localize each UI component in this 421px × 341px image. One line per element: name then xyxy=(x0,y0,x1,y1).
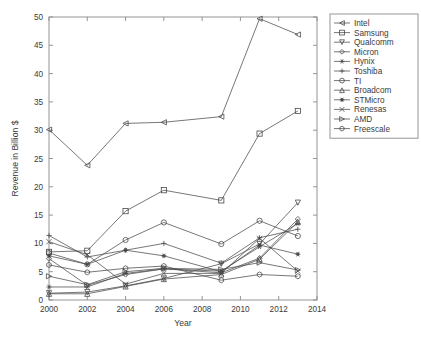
marker-plus xyxy=(161,241,166,246)
series-renesas xyxy=(46,236,300,287)
series-samsung xyxy=(46,108,300,254)
series-intel xyxy=(46,16,300,168)
legend-item-label: STMicro xyxy=(354,96,385,105)
x-tick-label: 2010 xyxy=(231,305,250,314)
y-tick-label: 15 xyxy=(34,211,44,220)
x-tick-label: 2006 xyxy=(155,305,174,314)
legend-item-label: Samsung xyxy=(354,29,389,38)
series-line xyxy=(49,19,298,166)
plot-frame xyxy=(49,17,317,300)
legend-item-label: Qualcomm xyxy=(354,38,394,47)
legend-item-label: Freescale xyxy=(354,125,390,134)
marker-asterisk xyxy=(295,252,300,257)
series-line xyxy=(49,111,298,252)
revenue-line-chart-figure: 2000200220042006200820102012201405101520… xyxy=(0,0,421,341)
series-ti xyxy=(46,218,300,267)
marker-asterisk xyxy=(161,254,166,259)
y-tick-label: 40 xyxy=(34,70,44,79)
marker-plus xyxy=(295,227,300,232)
x-tick-label: 2008 xyxy=(193,305,212,314)
series-toshiba xyxy=(46,227,300,266)
legend: IntelSamsungQualcommMicronHynixToshibaTI… xyxy=(330,14,418,138)
legend-item-label: Renesas xyxy=(354,105,386,114)
y-tick-label: 0 xyxy=(38,296,43,305)
legend-item-label: TI xyxy=(354,77,361,86)
legend-item-label: Hynix xyxy=(354,57,374,66)
legend-item-label: Broadcom xyxy=(354,86,391,95)
x-tick-label: 2002 xyxy=(78,305,97,314)
x-tick-label: 2000 xyxy=(40,305,59,314)
y-tick-label: 35 xyxy=(34,98,44,107)
legend-item-label: Intel xyxy=(354,19,370,28)
legend-item-label: AMD xyxy=(354,115,372,124)
y-tick-label: 20 xyxy=(34,183,44,192)
y-axis-title: Revenue in Billion $ xyxy=(10,120,20,196)
y-tick-label: 30 xyxy=(34,126,44,135)
y-tick-label: 50 xyxy=(34,13,44,22)
x-axis-title: Year xyxy=(174,318,192,328)
x-tick-label: 2014 xyxy=(308,305,327,314)
x-tick-label: 2012 xyxy=(270,305,289,314)
chart-canvas: 2000200220042006200820102012201405101520… xyxy=(0,0,421,341)
y-tick-label: 5 xyxy=(38,268,43,277)
x-tick-label: 2004 xyxy=(116,305,135,314)
y-tick-label: 25 xyxy=(34,155,44,164)
marker-asterisk xyxy=(123,248,128,253)
series-line xyxy=(49,219,298,285)
y-tick-label: 10 xyxy=(34,239,44,248)
legend-item-label: Micron xyxy=(354,48,379,57)
y-tick-label: 45 xyxy=(34,41,44,50)
legend-item-label: Toshiba xyxy=(354,67,383,76)
marker-plus xyxy=(46,233,51,238)
